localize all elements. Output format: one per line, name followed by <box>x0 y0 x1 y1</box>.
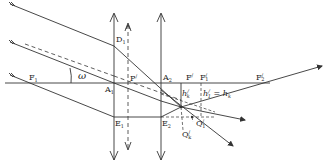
label-F2-prime: F/2 <box>256 72 264 82</box>
label-E1: E1 <box>115 119 124 129</box>
label-omega: ω <box>78 70 86 81</box>
label-Qk-prime: Q/k <box>182 129 192 140</box>
label-P-prime: P/ <box>130 73 137 83</box>
incoming-rays <box>9 2 114 117</box>
label-F1: F1 <box>29 73 38 83</box>
label-h1-equals-hk: h/1 = hk <box>203 88 231 99</box>
label-h-k-prime: h/k <box>182 88 190 99</box>
label-F1-prime: F/1 <box>200 72 208 82</box>
label-D1: D1 <box>116 35 126 45</box>
label-A1: A1 <box>104 85 114 95</box>
label-E2: E2 <box>162 119 171 129</box>
aperture-stop-dashed-lens <box>125 23 131 150</box>
point-Q1-prime <box>191 116 193 118</box>
label-A2: A2 <box>162 73 172 83</box>
omega-angle-arc <box>70 68 71 83</box>
label-Q1-prime: Q/1 <box>196 118 205 129</box>
convergence-point <box>180 106 183 109</box>
optics-ray-diagram: F1 ω D1 P/ A1 A2 E1 E2 F/ F/1 F/2 h/k h/… <box>0 0 327 168</box>
label-F-prime: F/ <box>186 72 194 82</box>
